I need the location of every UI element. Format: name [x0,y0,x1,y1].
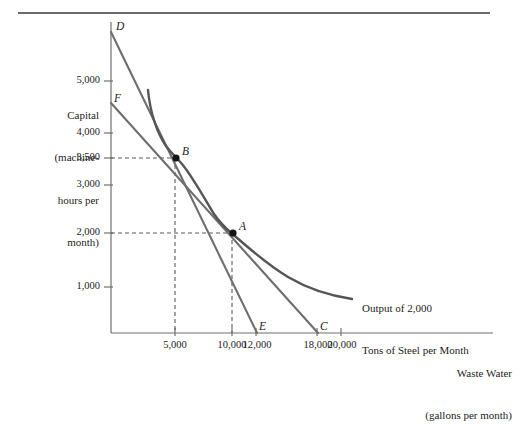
y-tick-label-5000: 5,000 [54,74,100,86]
y-tick-label-2000: 2,000 [54,226,100,238]
y-tick-label-4000: 4,000 [54,126,100,138]
label-point-a: A [239,220,246,234]
y-axis-ticks [104,81,113,287]
x-tick-label-20000: 20,000 [315,339,369,351]
label-line-e: E [259,320,266,334]
data-point-b [172,154,179,161]
isoquant-curve [148,90,352,299]
label-line-c: C [320,320,328,334]
x-tick-label-12000: 12,000 [230,339,284,351]
y-axis-title-line-1: Capital [25,108,99,122]
y-tick-label-3000: 3,000 [54,178,100,190]
x-axis-title-line-2: (gallons per month) [378,408,512,422]
y-axis-title-line-3: hours per [25,193,99,207]
isocost-line-fc [111,103,318,333]
data-point-a [229,229,236,236]
label-line-d: D [116,20,124,34]
y-tick-label-1000: 1,000 [54,280,100,292]
label-point-b: B [182,145,189,159]
label-line-f: F [114,92,121,106]
y-tick-label-3500: 3,500 [54,151,100,163]
isoquant-annotation-line-2: Tons of Steel per Month [362,343,469,357]
isoquant-annotation-line-1: Output of 2,000 [362,301,469,315]
isocost-line-de [111,32,257,333]
isoquant-annotation: Output of 2,000 Tons of Steel per Month [362,272,469,386]
x-tick-label-5000: 5,000 [150,339,200,351]
